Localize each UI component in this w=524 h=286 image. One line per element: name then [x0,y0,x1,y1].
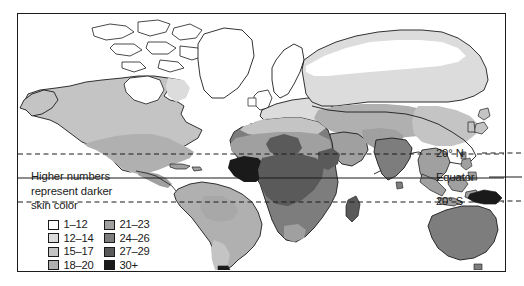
map-frame: Higher numbers represent darker skin col… [17,13,506,272]
latitude-label-equator: Equator [436,171,474,183]
legend-entry-label: 27–29 [120,246,150,257]
legend-entry-label: 18–20 [64,260,94,271]
legend-caption: Higher numbers represent darker skin col… [31,169,231,213]
legend-entry-label: 21–23 [120,219,150,230]
latitude-label-20n: 20° N [436,147,464,159]
legend-entry: 12–14 [48,231,104,245]
landmass-ireland [248,98,256,106]
legend-caption-line-2: represent darker [31,184,231,199]
legend-entry-label: 24–26 [120,233,150,244]
legend-entry: 15–17 [48,245,104,259]
landmass-sri-lanka [396,182,403,189]
legend-caption-line-3: skin color [31,198,231,213]
legend-swatch-icon [48,247,59,257]
legend-entry: 21–23 [104,218,160,232]
legend-entry: 27–29 [104,245,160,259]
latitude-label-20s: 20° S [436,195,463,207]
legend-entry-label: 15–17 [64,246,94,257]
legend-entry-label: 1–12 [64,219,88,230]
legend-swatch-icon [104,233,115,243]
legend-entry: 1–12 [48,218,104,232]
map-legend: Higher numbers represent darker skin col… [31,169,231,272]
legend-entry: 24–26 [104,231,160,245]
legend-swatch-icon [48,220,59,230]
skin-color-map-figure: Higher numbers represent darker skin col… [0,0,524,286]
legend-entry: 30+ [104,259,160,272]
legend-swatch-icon [104,247,115,257]
legend-swatch-grid: 1–12 21–23 12–14 24–26 15–17 [48,218,231,272]
legend-entry-label: 30+ [120,260,138,271]
legend-entry-label: 12–14 [64,233,94,244]
legend-swatch-icon [104,260,115,270]
landmass-tasmania [474,264,482,270]
landmass-korea [468,122,475,132]
legend-swatch-icon [48,233,59,243]
legend-swatch-icon [48,260,59,270]
legend-caption-line-1: Higher numbers [31,169,231,184]
legend-entry: 18–20 [48,259,104,272]
legend-swatch-icon [104,220,115,230]
